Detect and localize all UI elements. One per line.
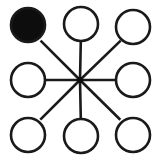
node-hub-center[interactable] xyxy=(77,77,83,83)
node-top-right[interactable] xyxy=(116,10,150,44)
node-bottom-right[interactable] xyxy=(116,118,150,152)
node-top-center[interactable] xyxy=(64,7,98,41)
hub-layer xyxy=(77,77,83,83)
edge-bottom-center xyxy=(80,80,81,119)
node-bottom-center[interactable] xyxy=(64,119,98,153)
node-top-left[interactable] xyxy=(11,8,45,42)
graph-canvas: Star graph with eight peripheral nodes a… xyxy=(0,0,160,161)
node-bottom-left[interactable] xyxy=(11,118,45,152)
star-graph-diagram: Star graph with eight peripheral nodes a… xyxy=(0,0,160,161)
node-middle-left[interactable] xyxy=(11,63,45,97)
edge-top-center xyxy=(80,41,81,80)
node-middle-right[interactable] xyxy=(116,63,150,97)
